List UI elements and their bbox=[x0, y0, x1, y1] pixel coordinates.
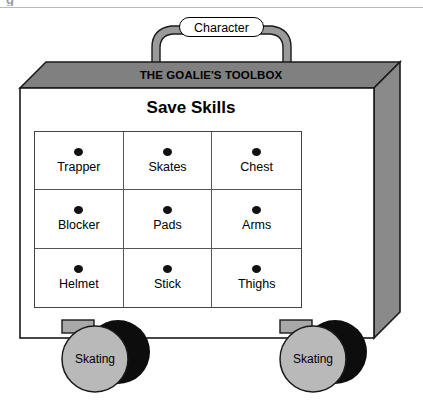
drawer-cell: Helmet bbox=[35, 249, 124, 307]
drawer-cell: Arms bbox=[212, 190, 301, 248]
drawer-cell: Chest bbox=[212, 132, 301, 190]
drawer-knob-icon bbox=[252, 148, 261, 156]
right-wheel-label: Skating bbox=[283, 352, 343, 366]
drawer-label: Blocker bbox=[58, 219, 100, 232]
goalies-toolbox-figure: g Character THE GOALIE'S TOOLBOX Save Sk… bbox=[0, 0, 423, 409]
drawer-cell: Thighs bbox=[212, 249, 301, 307]
drawer-knob-icon bbox=[252, 206, 261, 214]
left-wheel-label: Skating bbox=[65, 352, 125, 366]
drawer-label: Arms bbox=[242, 219, 271, 232]
drawer-label: Helmet bbox=[59, 278, 99, 291]
drawer-label: Thighs bbox=[238, 278, 276, 291]
drawer-label: Chest bbox=[240, 161, 273, 174]
drawer-knob-icon bbox=[74, 206, 83, 214]
drawer-knob-icon bbox=[163, 148, 172, 156]
character-handle-label: Character bbox=[179, 17, 264, 37]
toolbox-right-side-face bbox=[374, 62, 400, 338]
drawer-cell: Pads bbox=[124, 190, 213, 248]
drawer-label: Trapper bbox=[57, 161, 100, 174]
drawer-cell: Skates bbox=[124, 132, 213, 190]
drawer-knob-icon bbox=[163, 265, 172, 273]
drawer-cell: Stick bbox=[124, 249, 213, 307]
drawer-label: Skates bbox=[148, 161, 186, 174]
drawer-knob-icon bbox=[74, 148, 83, 156]
drawer-label: Pads bbox=[153, 219, 182, 232]
save-skills-drawer-grid: Trapper Skates Chest Blocker Pads Arms H… bbox=[34, 131, 302, 308]
save-skills-heading: Save Skills bbox=[51, 98, 331, 118]
toolbox-lid-title: THE GOALIE'S TOOLBOX bbox=[61, 69, 361, 81]
drawer-cell: Trapper bbox=[35, 132, 124, 190]
drawer-knob-icon bbox=[163, 206, 172, 214]
drawer-knob-icon bbox=[74, 265, 83, 273]
drawer-knob-icon bbox=[252, 265, 261, 273]
drawer-cell: Blocker bbox=[35, 190, 124, 248]
drawer-label: Stick bbox=[154, 278, 181, 291]
